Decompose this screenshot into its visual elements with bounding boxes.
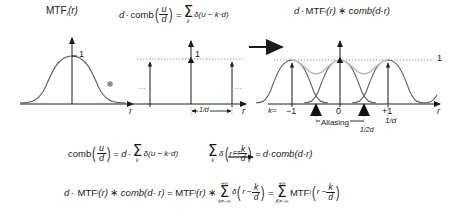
right-tick-plus1: +1: [382, 107, 392, 116]
left-x-axis-label: r: [129, 107, 132, 116]
eq2-mtf3-sub: I: [309, 189, 311, 195]
left-panel-title: MTFi(r): [46, 6, 78, 17]
eq2-frac2-den: d: [326, 193, 335, 202]
middle-spacing-label: 1/d: [198, 106, 210, 113]
eq2-sum2-bot: K=−∞: [276, 199, 289, 204]
eq2-mtf: MTF: [75, 188, 97, 198]
middle-ellipsis-right: …: [234, 83, 242, 91]
right-title-arg: (r): [326, 6, 336, 16]
aliasing-label: Aliasing: [320, 119, 350, 127]
right-x-axis-label: r: [437, 107, 440, 116]
right-peak-label: 1: [437, 54, 442, 63]
eq2-delta: δ: [231, 188, 237, 196]
right-spacing-label: 1/d: [385, 117, 396, 125]
equation-2: d · MTFi(r) ∗ comb(d· r) = MTFi(r) ∗ +∞Σ…: [64, 181, 341, 204]
right-tick-zero: 0: [336, 107, 341, 116]
right-title-mtf: MTF: [305, 6, 325, 16]
equation-1: comb ( ud ) = d · Σk δ(u − k·d) Σk δ ( r…: [68, 144, 312, 164]
eq2-sum1-bot: k=−∞: [219, 199, 231, 204]
middle-x-axis-label: r: [242, 107, 245, 116]
eq2-r-minus2: r −: [317, 188, 327, 196]
eq1-delta-arg: δ(u − k·d): [142, 150, 178, 158]
eq1-delta2: δ: [218, 150, 224, 158]
eq1-comb: comb: [68, 149, 91, 159]
middle-panel-title: d · comb ( ud ) = Σk δ(u − k·d): [119, 5, 229, 25]
ft-label: FT: [233, 150, 240, 156]
eq2-mtf2: MTF: [175, 188, 195, 198]
middle-frac-den: d: [159, 15, 168, 24]
middle-title-equals: =: [174, 10, 184, 20]
right-title-conv: ∗: [336, 6, 349, 16]
left-plot-group: [20, 38, 133, 104]
right-k-label: k=: [268, 107, 277, 115]
eq2-mtf3: MTF: [288, 188, 309, 198]
eq2-frac1-den: d: [252, 193, 261, 202]
middle-title-delta: δ(u − k·d): [193, 11, 228, 19]
middle-plot-group: [133, 41, 246, 116]
middle-ellipsis-left: …: [138, 83, 146, 91]
right-tick-minus1: −1: [286, 107, 296, 116]
eq1-equals2: =: [253, 149, 263, 159]
eq1-frac1-den: d: [97, 154, 106, 163]
left-peak-label: 1: [79, 50, 84, 59]
eq2-comb: comb(d· r): [121, 188, 165, 198]
eq2-equals: =: [165, 188, 176, 198]
right-panel-title: d · MTFi(r) ∗ comb(d·r): [294, 6, 390, 16]
eq2-conv: ∗: [108, 188, 121, 198]
eq2-mtf-arg: (r): [98, 188, 108, 198]
eq1-rhs: d·comb(d·r): [263, 149, 313, 159]
eq2-conv2: ∗: [206, 188, 219, 198]
right-half-spacing-label: 1/2d: [360, 126, 374, 133]
left-title-arg: (r): [68, 5, 78, 16]
eq2-r-minus: r −: [242, 188, 252, 196]
eq1-equals: =: [112, 149, 122, 159]
figure-canvas: MTFi(r) 1 r d · comb ( ud ) = Σk δ(u − k…: [0, 0, 460, 216]
right-title-comb: comb(d·r): [349, 6, 390, 16]
right-plot-group: [256, 41, 440, 126]
eq2-equals2: =: [266, 188, 276, 198]
convolution-star-graphic: [107, 81, 113, 87]
middle-peak-label: 1: [195, 50, 200, 59]
eq2-mtf2-arg: (r): [196, 188, 206, 198]
middle-title-comb: comb: [130, 10, 153, 20]
